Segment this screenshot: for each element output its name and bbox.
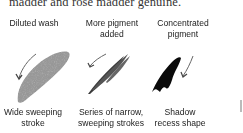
wash-stroke-shape [18, 52, 70, 103]
cropped-edge-mark [240, 100, 242, 112]
caption-line: recess shape [151, 117, 209, 128]
caption-line: Shadow [151, 106, 209, 117]
paragraph-fragment: madder and rose madder genuine. [9, 0, 181, 10]
narrow-strokes-illustration [84, 50, 134, 96]
arrow-icon [183, 56, 193, 76]
caption-line: Series of narrow, [74, 106, 148, 117]
caption-line: sweeping strokes [74, 117, 148, 128]
caption-narrow-strokes: Series of narrow, sweeping strokes [74, 106, 148, 128]
arrow-icon [90, 54, 106, 66]
caption-line: Wide sweeping [3, 106, 62, 117]
shadow-shape [152, 57, 181, 92]
title-line: More pigment [82, 17, 141, 28]
caption-line: stroke [3, 117, 62, 128]
caption-wide-sweeping-stroke: Wide sweeping stroke [3, 106, 62, 128]
column-title-concentrated: Concentrated pigment [153, 17, 212, 39]
title-line: added [82, 28, 141, 39]
caption-shadow-recess: Shadow recess shape [151, 106, 209, 128]
diluted-wash-stroke-illustration [10, 48, 74, 104]
column-title-more-pigment: More pigment added [82, 17, 141, 39]
shadow-recess-shape-illustration [150, 52, 195, 94]
title-line: pigment [153, 28, 212, 39]
column-title-diluted-wash: Diluted wash [6, 17, 62, 28]
title-line: Diluted wash [6, 17, 62, 28]
title-line: Concentrated [153, 17, 212, 28]
